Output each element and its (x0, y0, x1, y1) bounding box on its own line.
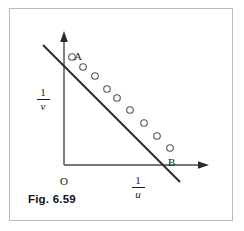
y-axis-label-numerator: 1 (32, 87, 54, 99)
data-point (92, 73, 99, 80)
y-axis-label-denominator: v (32, 100, 54, 112)
x-axis-label-denominator: u (127, 188, 149, 200)
data-point (104, 86, 111, 93)
x-axis-label: 1 u (127, 175, 149, 200)
data-point (80, 64, 87, 71)
plot-area: 1 v 1 u A B O (10, 9, 234, 184)
data-point-series (69, 54, 174, 152)
figure-card: 1 v 1 u A B O Fig. 6.59 (9, 8, 233, 221)
x-axis-arrow-icon (198, 161, 209, 169)
point-b-label: B (168, 157, 175, 168)
data-point (154, 133, 161, 140)
data-point (127, 107, 134, 114)
x-axis (64, 161, 209, 169)
y-axis-arrow-icon (60, 31, 68, 42)
data-point (141, 120, 148, 127)
origin-label: O (60, 176, 68, 187)
data-point (114, 95, 121, 102)
data-point (167, 145, 174, 152)
x-axis-label-numerator: 1 (127, 175, 149, 187)
figure-caption: Fig. 6.59 (28, 193, 76, 205)
y-axis-label: 1 v (32, 87, 54, 112)
y-axis (60, 31, 68, 165)
point-a-label: A (74, 51, 82, 62)
